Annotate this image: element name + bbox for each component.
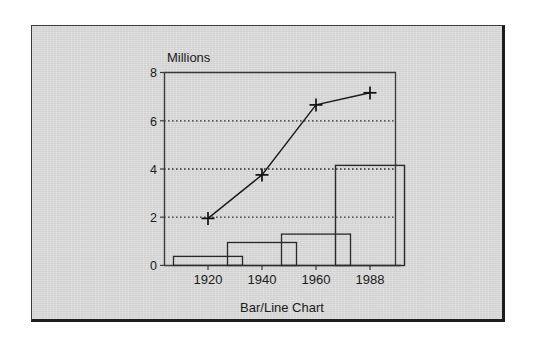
x-tick-label-1920: 1920 [194,272,223,287]
y-tick-label-0: 0 [150,259,157,273]
x-tick-label-1960: 1960 [302,272,331,287]
x-tick-label-1940: 1940 [248,272,277,287]
bar-line-chart: Millions 8 6 4 2 0 1920 1940 1960 1988 B… [32,26,503,320]
chart-caption: Bar/Line Chart [240,300,324,315]
figure-frame: Millions 8 6 4 2 0 1920 1940 1960 1988 B… [31,25,505,322]
y-tick-label-6: 6 [150,115,157,129]
y-tick-label-2: 2 [150,211,157,225]
screenshot-page: Millions 8 6 4 2 0 1920 1940 1960 1988 B… [0,0,537,347]
x-tick-label-1988: 1988 [356,272,385,287]
bar-1960 [282,234,351,265]
y-axis-unit-label: Millions [167,50,211,65]
chart-region: Millions 8 6 4 2 0 1920 1940 1960 1988 B… [32,26,502,319]
y-tick-label-4: 4 [150,163,157,177]
y-tick-label-8: 8 [150,66,157,80]
bar-1920 [174,256,243,265]
bar-1988 [336,165,405,265]
bar-1940 [228,243,297,266]
marker-1988 [364,86,377,99]
marker-1940 [256,169,269,182]
line-series [208,93,370,219]
marker-1960 [310,99,323,112]
